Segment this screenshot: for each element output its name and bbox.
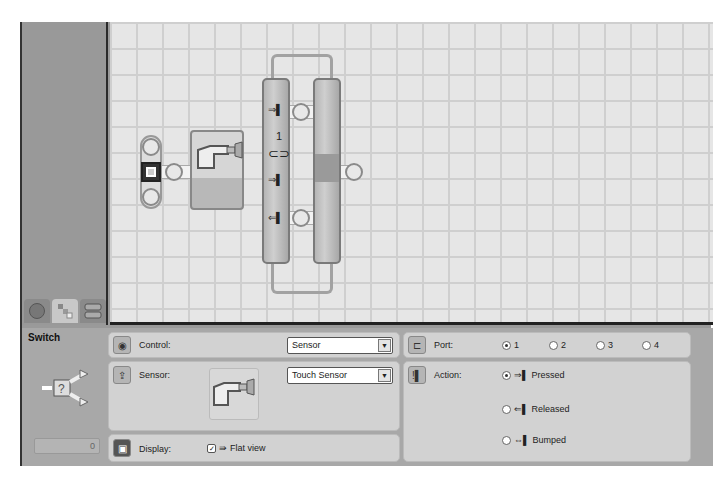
action-option-pressed[interactable]: ⇒▌Pressed (502, 370, 564, 380)
block-number-field[interactable]: 0 (34, 438, 100, 454)
port-option-label: 2 (561, 340, 566, 350)
port-number: 1 (276, 130, 282, 142)
control-label: Control: (139, 340, 171, 350)
action-option-bumped[interactable]: ⇔▌Bumped (502, 435, 566, 445)
radio-icon (642, 341, 651, 350)
sensor-type-icon: ⇪ (113, 366, 131, 384)
palette-tab-common[interactable] (24, 299, 50, 323)
checkbox-checked-icon: ✓ (207, 444, 216, 453)
pressed-icon: ⇒▌ (268, 174, 283, 185)
radio-selected-icon (502, 371, 511, 380)
radio-selected-icon (502, 341, 511, 350)
program-canvas[interactable]: ⇒▌ 1 ⊂⊃ ⇒▌ ⇐▌ (110, 22, 713, 325)
action-option-label: Pressed (531, 370, 564, 380)
flat-view-checkbox[interactable]: ✓ ⇛ Flat view (207, 443, 266, 453)
action-icon: !▌ (408, 366, 426, 384)
blocks-icon (57, 303, 73, 319)
start-plug-top[interactable] (142, 138, 160, 156)
sensor-row: ⇪ Sensor: Touch Sensor ▼ (108, 361, 400, 431)
lower-branch-plug[interactable] (292, 209, 310, 227)
stack-icon (84, 303, 102, 319)
right-beam-highlight (315, 154, 339, 182)
action-option-label: Bumped (532, 435, 566, 445)
control-dropdown[interactable]: Sensor ▼ (287, 337, 393, 354)
action-row: !▌ Action: ⇒▌Pressed ⇐▌Released ⇔▌Bumped (403, 361, 691, 462)
switch-frame-bottom (271, 262, 333, 294)
port-row: ⊏ Port: 1 2 3 4 (403, 332, 691, 358)
flat-view-icon: ⇛ (219, 443, 227, 453)
touch-sensor-hub-icon[interactable]: ⊂⊃ (268, 146, 290, 161)
pressed-condition-icon: ⇒▌ (268, 104, 283, 115)
sensor-preview (209, 368, 259, 420)
nxt-g-editor-window: ⇒▌ 1 ⊂⊃ ⇒▌ ⇐▌ Switch ? 0 ◉ Control: Sens… (20, 22, 711, 466)
display-icon: ▣ (113, 439, 131, 457)
action-label: Action: (434, 370, 462, 380)
released-icon: ⇐▌ (514, 404, 528, 414)
sensor-value: Touch Sensor (292, 370, 347, 380)
port-icon: ⊏ (408, 336, 426, 354)
sensor-dropdown[interactable]: Touch Sensor ▼ (287, 367, 393, 384)
display-label: Display: (139, 444, 171, 454)
port-option-label: 4 (654, 340, 659, 350)
control-value: Sensor (292, 340, 321, 350)
port-option-2[interactable]: 2 (549, 340, 566, 350)
radio-icon (502, 436, 511, 445)
port-option-label: 3 (608, 340, 613, 350)
configuration-panel: Switch ? 0 ◉ Control: Sensor ▼ ⇪ Sensor:… (22, 328, 713, 466)
released-icon: ⇐▌ (268, 212, 283, 223)
radio-icon (549, 341, 558, 350)
palette-tab-custom[interactable] (80, 299, 106, 323)
pressed-icon: ⇒▌ (514, 370, 528, 380)
chevron-down-icon[interactable]: ▼ (378, 339, 391, 352)
exit-plug[interactable] (345, 163, 363, 181)
switch-left-beam[interactable]: ⇒▌ 1 ⊂⊃ ⇒▌ ⇐▌ (262, 78, 290, 264)
flat-view-label: Flat view (230, 443, 266, 453)
touch-sensor-condition-block[interactable] (190, 130, 244, 210)
start-plug-bottom[interactable] (142, 188, 160, 206)
radio-icon (502, 405, 511, 414)
sensor-label: Sensor: (139, 370, 170, 380)
port-option-1[interactable]: 1 (502, 340, 519, 350)
block-title: Switch (28, 332, 60, 343)
port-option-3[interactable]: 3 (596, 340, 613, 350)
switch-block-icon: ? (40, 368, 92, 408)
radio-icon (596, 341, 605, 350)
svg-text:?: ? (58, 382, 65, 396)
port-option-4[interactable]: 4 (642, 340, 659, 350)
eye-icon: ◉ (113, 336, 131, 354)
touch-sensor-icon (194, 140, 246, 180)
action-option-released[interactable]: ⇐▌Released (502, 404, 569, 414)
action-option-label: Released (531, 404, 569, 414)
palette-tab-complete[interactable] (52, 299, 78, 323)
bumped-icon: ⇔▌ (514, 435, 529, 445)
programming-palette (22, 22, 108, 325)
touch-sensor-icon (210, 377, 258, 417)
display-row: ▣ Display: ✓ ⇛ Flat view (108, 434, 400, 462)
palette-tabs (24, 299, 106, 323)
control-row: ◉ Control: Sensor ▼ (108, 332, 400, 358)
start-point-icon[interactable] (141, 162, 161, 182)
chevron-down-icon[interactable]: ▼ (378, 369, 391, 382)
port-label: Port: (434, 340, 453, 350)
circle-icon (29, 303, 45, 319)
sequence-plug-1[interactable] (165, 163, 183, 181)
switch-right-beam[interactable] (313, 78, 341, 264)
port-option-label: 1 (514, 340, 519, 350)
upper-branch-plug[interactable] (292, 103, 310, 121)
